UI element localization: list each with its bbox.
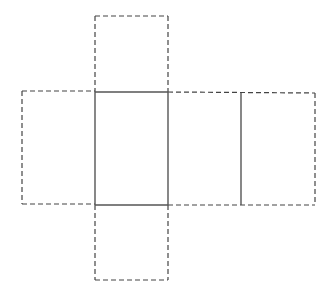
prism-net-diagram (0, 0, 334, 302)
right-strip-top-line (168, 92, 315, 93)
solid-cut-lines (95, 92, 241, 205)
